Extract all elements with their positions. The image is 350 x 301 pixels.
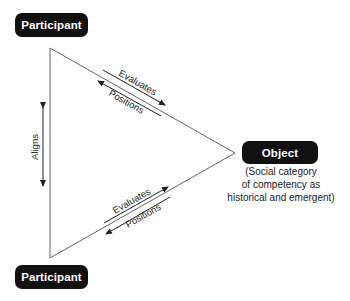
object-description-line: historical and emergent) — [225, 191, 337, 204]
participant-top-label: Participant — [21, 19, 82, 31]
object-description-line: (Social category — [225, 165, 337, 178]
participant-node-bottom: Participant — [15, 265, 88, 289]
object-node: Object — [242, 141, 318, 164]
object-description: (Social category of competency as histor… — [225, 165, 337, 204]
left-edge-arrow: Aligns — [29, 108, 43, 186]
top-edge-arrows: Evaluates Positions — [98, 67, 165, 116]
object-label: Object — [262, 147, 298, 159]
bottom-edge-arrows: Evaluates Positions — [104, 185, 170, 234]
object-description-line: of competency as — [225, 178, 337, 191]
participant-node-top: Participant — [15, 13, 88, 37]
participant-bottom-label: Participant — [21, 271, 82, 283]
aligns-label: Aligns — [29, 134, 40, 160]
